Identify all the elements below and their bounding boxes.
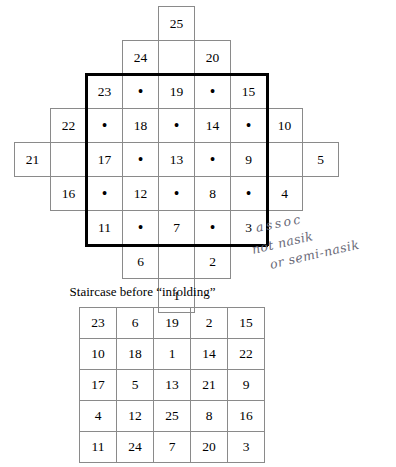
- diamond-dot-cell: •: [86, 176, 123, 211]
- diamond-number-cell: 16: [50, 176, 87, 211]
- square-grid-cell: 20: [191, 432, 228, 463]
- diamond-dot-cell: •: [194, 142, 231, 177]
- square-grid-cell: 18: [117, 339, 154, 370]
- diamond-number-cell: 25: [158, 6, 195, 41]
- diamond-heavy-border-left: [85, 73, 88, 246]
- square-grid-cell: 13: [154, 370, 191, 401]
- square-grid-cell: 23: [80, 308, 117, 339]
- diamond-number-cell: 2: [194, 244, 231, 279]
- diamond-number-cell: 11: [86, 210, 123, 245]
- square-grid-cell: 5: [117, 370, 154, 401]
- square-grid-cell: 19: [154, 308, 191, 339]
- diamond-number-cell: 9: [230, 142, 267, 177]
- diamond-number-cell: 22: [50, 108, 87, 143]
- diamond-dot-cell: •: [122, 142, 159, 177]
- square-grid-cell: 7: [154, 432, 191, 463]
- diamond-dot-cell: •: [194, 74, 231, 109]
- diamond-dot-cell: •: [158, 108, 195, 143]
- diamond-number-cell: 15: [230, 74, 267, 109]
- figure-stage: 25242023•19•1522•18•14•102117•13•9516•12…: [0, 0, 396, 467]
- diamond-number-cell: 24: [122, 40, 159, 75]
- square-grid-cell: 4: [80, 401, 117, 432]
- square-grid-cell: 11: [80, 432, 117, 463]
- diamond-number-cell: 19: [158, 74, 195, 109]
- diamond-number-cell: 17: [86, 142, 123, 177]
- square-grid-cell: 3: [228, 432, 265, 463]
- diamond-staircase-grid: 25242023•19•1522•18•14•102117•13•9516•12…: [14, 4, 274, 279]
- square-grid-cell: 6: [117, 308, 154, 339]
- diamond-dot-cell: •: [122, 210, 159, 245]
- diamond-heavy-border-top: [85, 73, 268, 76]
- diamond-number-cell: 21: [14, 142, 51, 177]
- diamond-number-cell: 8: [194, 176, 231, 211]
- diamond-number-cell: 12: [122, 176, 159, 211]
- square-grid-row: 17513219: [80, 370, 265, 401]
- square-grid-cell: 8: [191, 401, 228, 432]
- square-grid-cell: 25: [154, 401, 191, 432]
- diamond-number-cell: 23: [86, 74, 123, 109]
- diamond-number-cell: 18: [122, 108, 159, 143]
- diamond-dot-cell: •: [230, 108, 267, 143]
- square-grid-cell: 12: [117, 401, 154, 432]
- square-grid-row: 23619215: [80, 308, 265, 339]
- diamond-dot-cell: •: [122, 74, 159, 109]
- diamond-number-cell: 6: [122, 244, 159, 279]
- square-grid-cell: 1: [154, 339, 191, 370]
- handwritten-annotation: assoc not nasik or semi-nasik: [252, 206, 392, 276]
- square-grid-cell: 21: [191, 370, 228, 401]
- square-grid-cell: 2: [191, 308, 228, 339]
- square-grid-cell: 24: [117, 432, 154, 463]
- diamond-number-cell: 20: [194, 40, 231, 75]
- diamond-number-cell: 5: [302, 142, 339, 177]
- diamond-dot-cell: •: [86, 108, 123, 143]
- diamond-dot-cell: •: [194, 210, 231, 245]
- square-grid-cell: 14: [191, 339, 228, 370]
- diamond-dot-cell: •: [158, 176, 195, 211]
- diamond-number-cell: 7: [158, 210, 195, 245]
- square-grid-row: 101811422: [80, 339, 265, 370]
- square-grid-cell: 22: [228, 339, 265, 370]
- square-grid-cell: 17: [80, 370, 117, 401]
- square-grid-row: 41225816: [80, 401, 265, 432]
- diamond-number-cell: 13: [158, 142, 195, 177]
- figure-caption: Staircase before “infolding”: [0, 284, 285, 300]
- diamond-number-cell: 14: [194, 108, 231, 143]
- square-grid-cell: 10: [80, 339, 117, 370]
- square-grid-row: 11247203: [80, 432, 265, 463]
- square-grid-cell: 16: [228, 401, 265, 432]
- square-magic-grid: 2361921510181142217513219412258161124720…: [79, 307, 265, 463]
- diamond-number-cell: 10: [266, 108, 303, 143]
- diamond-heavy-border-bottom: [85, 244, 268, 247]
- square-grid-body: 2361921510181142217513219412258161124720…: [80, 308, 265, 463]
- square-grid-cell: 15: [228, 308, 265, 339]
- square-grid-cell: 9: [228, 370, 265, 401]
